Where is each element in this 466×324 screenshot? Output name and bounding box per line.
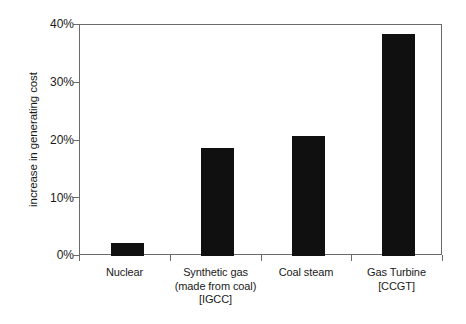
y-axis-tick-labels: 40% 30% 20% 10% 0% — [30, 0, 74, 324]
x-tick-mark-0 — [79, 255, 80, 261]
plot-area — [79, 24, 442, 255]
bar-nuclear — [111, 243, 144, 256]
x-tick-mark-3 — [351, 255, 352, 261]
bar-synthetic-gas — [201, 148, 234, 256]
x-category-label-gas-turbine: Gas Turbine [CCGT] — [351, 266, 442, 293]
y-tick-label-40: 40% — [30, 18, 74, 30]
bar-chart: increase in generating cost 40% 30% 20% … — [0, 0, 466, 324]
y-tick-label-10: 10% — [30, 192, 74, 204]
bar-gas-turbine — [382, 34, 415, 256]
bar-coal-steam — [292, 136, 325, 256]
y-tick-label-20: 20% — [30, 134, 74, 146]
y-tick-label-0: 0% — [30, 249, 74, 261]
x-category-label-nuclear: Nuclear — [79, 266, 170, 280]
x-tick-mark-2 — [261, 255, 262, 261]
x-category-label-coal-steam: Coal steam — [261, 266, 351, 280]
x-tick-mark-1 — [170, 255, 171, 261]
x-category-label-synthetic-gas: Synthetic gas (made from coal) [IGCC] — [170, 266, 261, 307]
y-tick-label-30: 30% — [30, 76, 74, 88]
x-tick-mark-4 — [442, 255, 443, 261]
